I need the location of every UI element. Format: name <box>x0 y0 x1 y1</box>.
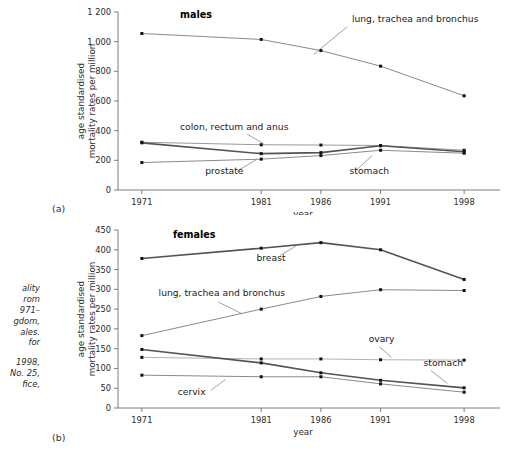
x-axis-title: year <box>293 427 313 437</box>
x-tick-label: 1971 <box>131 415 152 425</box>
x-tick-label: 1986 <box>310 197 331 207</box>
data-point-marker <box>379 248 382 251</box>
data-point-marker <box>319 371 322 374</box>
chart-group-title: females <box>173 229 216 240</box>
data-point-marker <box>463 278 466 281</box>
label-leader-line <box>211 380 225 391</box>
chart-group-title: males <box>180 9 212 20</box>
data-point-marker <box>319 151 322 154</box>
y-tick-label: 0 <box>106 403 111 413</box>
series-line <box>142 34 464 96</box>
x-tick-label: 1986 <box>310 415 331 425</box>
y-tick-label: 150 <box>95 344 111 354</box>
data-point-marker <box>319 154 322 157</box>
data-point-marker <box>140 161 143 164</box>
data-point-marker <box>260 143 263 146</box>
data-point-marker <box>379 358 382 361</box>
y-tick-label: 50 <box>100 383 111 393</box>
data-point-marker <box>319 144 322 147</box>
y-tick-label: 800 <box>95 66 111 76</box>
series-line <box>142 357 464 360</box>
x-tick-label: 1981 <box>251 197 272 207</box>
data-point-marker <box>463 359 466 362</box>
y-tick-label: 250 <box>95 304 111 314</box>
data-point-marker <box>140 348 143 351</box>
data-point-marker <box>260 38 263 41</box>
data-point-marker <box>463 391 466 394</box>
data-point-marker <box>379 144 382 147</box>
label-leader-line <box>431 370 448 383</box>
data-point-marker <box>379 379 382 382</box>
x-tick-label: 1991 <box>370 415 391 425</box>
series-line <box>142 243 464 280</box>
series-label: breast <box>256 252 285 263</box>
data-point-marker <box>379 149 382 152</box>
x-axis-title: year <box>293 209 313 215</box>
y-tick-label: 200 <box>95 324 111 334</box>
data-point-marker <box>379 65 382 68</box>
data-point-marker <box>319 375 322 378</box>
data-point-marker <box>260 375 263 378</box>
series-label: lung, trachea and bronchus <box>352 13 479 24</box>
label-leader-line <box>218 302 242 314</box>
data-point-marker <box>463 386 466 389</box>
label-leader-line <box>314 27 347 54</box>
y-axis-title-line: mortality rates per million <box>87 44 97 159</box>
data-point-marker <box>379 288 382 291</box>
y-tick-label: 300 <box>95 284 111 294</box>
figure-root: ality rom 971– gdom, ales. for 1998, No.… <box>0 0 519 450</box>
series-line <box>142 349 464 387</box>
y-axis-title-line: age standardised <box>76 281 86 357</box>
data-point-marker <box>260 357 263 360</box>
x-tick-label: 1998 <box>454 197 475 207</box>
data-point-marker <box>140 374 143 377</box>
x-tick-label: 1971 <box>131 197 152 207</box>
data-point-marker <box>260 152 263 155</box>
y-tick-label: 400 <box>95 245 111 255</box>
x-tick-label: 1981 <box>251 415 272 425</box>
y-tick-label: 350 <box>95 265 111 275</box>
x-tick-label: 1998 <box>454 415 475 425</box>
chart-males: 02004006008001 0001 20019711981198619911… <box>0 0 519 215</box>
y-tick-label: 1 200 <box>87 7 111 17</box>
data-point-marker <box>260 308 263 311</box>
data-point-marker <box>463 94 466 97</box>
x-tick-label: 1991 <box>370 197 391 207</box>
data-point-marker <box>319 295 322 298</box>
y-tick-label: 450 <box>95 225 111 235</box>
label-leader-line <box>379 347 391 358</box>
data-point-marker <box>463 152 466 155</box>
y-axis-title-line: mortality rates per million <box>87 262 97 377</box>
data-point-marker <box>260 158 263 161</box>
data-point-marker <box>140 141 143 144</box>
y-tick-label: 600 <box>95 96 111 106</box>
data-point-marker <box>319 357 322 360</box>
data-point-marker <box>260 247 263 250</box>
data-point-marker <box>140 32 143 35</box>
data-point-marker <box>379 382 382 385</box>
y-tick-label: 200 <box>95 155 111 165</box>
y-axis-title-line: age standardised <box>76 63 86 139</box>
label-leader-line <box>247 134 264 144</box>
series-label: stomach <box>424 357 464 368</box>
chart-females: 0501001502002503003504004501971198119861… <box>0 218 519 450</box>
series-label: ovary <box>369 333 395 344</box>
data-point-marker <box>463 289 466 292</box>
data-point-marker <box>140 257 143 260</box>
data-point-marker <box>260 361 263 364</box>
data-point-marker <box>319 241 322 244</box>
series-label: colon, rectum and anus <box>180 121 289 132</box>
y-tick-label: 100 <box>95 363 111 373</box>
series-line <box>142 143 464 154</box>
data-point-marker <box>140 356 143 359</box>
y-tick-label: 0 <box>106 185 111 195</box>
series-label: prostate <box>205 165 244 176</box>
series-label: lung, trachea and bronchus <box>159 287 286 298</box>
series-line <box>142 150 464 162</box>
series-label: cervix <box>178 386 206 397</box>
series-label: stomach <box>350 165 390 176</box>
y-tick-label: 400 <box>95 126 111 136</box>
data-point-marker <box>140 334 143 337</box>
